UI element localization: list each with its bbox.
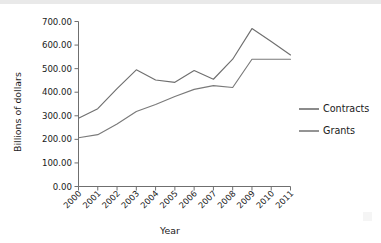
x-tick-label: 2011 bbox=[273, 188, 295, 210]
y-tick-label: 100.00 bbox=[42, 158, 72, 168]
y-tick-label: 0.00 bbox=[53, 182, 72, 192]
x-tick-label: 2007 bbox=[196, 188, 218, 210]
x-tick-label: 2008 bbox=[215, 188, 237, 210]
x-tick-label: 2001 bbox=[81, 188, 103, 210]
y-axis-tick-marks bbox=[75, 22, 79, 187]
x-tick-label: 2000 bbox=[61, 188, 83, 210]
y-tick-label: 300.00 bbox=[42, 111, 72, 121]
x-axis-tick-labels: 2000200120022003200420052006200720082009… bbox=[61, 188, 295, 210]
chart-legend: ContractsGrants bbox=[299, 103, 369, 136]
y-tick-label: 500.00 bbox=[42, 64, 72, 74]
x-tick-label: 2009 bbox=[235, 188, 257, 210]
y-axis-title: Billions of dollars bbox=[12, 72, 23, 152]
x-axis-title: Year bbox=[159, 225, 180, 236]
x-tick-label: 2010 bbox=[254, 188, 276, 210]
x-tick-label: 2006 bbox=[177, 188, 199, 210]
x-tick-label: 2003 bbox=[119, 188, 141, 210]
chart-figure: 0.00100.00200.00300.00400.00500.00600.00… bbox=[0, 0, 381, 243]
legend-label-contracts: Contracts bbox=[323, 103, 369, 114]
data-series-group bbox=[79, 29, 291, 138]
x-tick-label: 2005 bbox=[158, 188, 180, 210]
series-line-contracts bbox=[79, 29, 291, 119]
legend-label-grants: Grants bbox=[323, 125, 355, 136]
x-tick-label: 2004 bbox=[138, 188, 160, 210]
series-line-grants bbox=[79, 59, 291, 137]
y-tick-label: 400.00 bbox=[42, 87, 72, 97]
y-tick-label: 700.00 bbox=[42, 17, 72, 27]
corner-artifact bbox=[363, 212, 372, 221]
y-axis-tick-labels: 0.00100.00200.00300.00400.00500.00600.00… bbox=[42, 17, 72, 192]
y-tick-label: 200.00 bbox=[42, 134, 72, 144]
x-tick-label: 2002 bbox=[100, 188, 122, 210]
y-tick-label: 600.00 bbox=[42, 40, 72, 50]
x-axis-tick-marks bbox=[79, 187, 291, 191]
line-chart-canvas: 0.00100.00200.00300.00400.00500.00600.00… bbox=[0, 0, 381, 243]
